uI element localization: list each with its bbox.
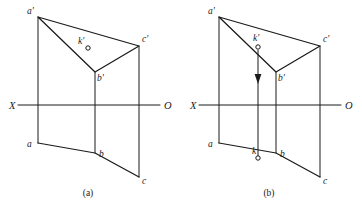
panel-a-point-k-prime-marker [86,46,90,50]
panel-b: a' c' b' k' a b c k X O (b) [189,6,353,199]
panel-b-caption: (b) [263,188,274,199]
panel-b-lower-line [219,143,320,177]
panel-a-lower-line [38,143,139,177]
panel-b-label-x: X [189,100,197,111]
panel-b-label-c: c [323,176,328,186]
panel-a-label-c-prime: c' [142,34,149,44]
panel-a-label-k-prime: k' [78,36,85,46]
panel-a-label-a: a [27,139,32,149]
panel-b-point-k-marker [256,156,260,160]
panel-a-upper-triangle [38,17,139,72]
panel-a-label-b: b [99,149,104,159]
panel-a-label-c: c [142,176,147,186]
panel-a-label-o: O [164,100,172,111]
panel-b-upper-triangle [219,17,320,72]
panel-a-label-a-prime: a' [27,6,35,16]
panel-b-label-o: O [345,100,353,111]
panel-b-point-k-prime-marker [256,45,260,49]
panel-b-label-c-prime: c' [323,34,330,44]
panel-a-label-b-prime: b' [97,73,105,83]
panel-a: a' c' b' k' a b c X O (a) [8,6,172,199]
panel-b-label-b-prime: b' [278,73,286,83]
panel-b-label-a: a [208,139,213,149]
panel-a-label-x: X [8,100,16,111]
panel-b-label-k-prime: k' [253,33,260,43]
panel-a-caption: (a) [83,188,94,199]
projection-figure: a' c' b' k' a b c X O (a) [0,0,362,209]
panel-b-label-k: k [252,146,257,156]
panel-b-label-b: b [280,149,285,159]
figure-canvas: a' c' b' k' a b c X O (a) [0,0,362,209]
panel-b-projection-arrow-head [255,74,262,84]
panel-b-label-a-prime: a' [208,6,216,16]
